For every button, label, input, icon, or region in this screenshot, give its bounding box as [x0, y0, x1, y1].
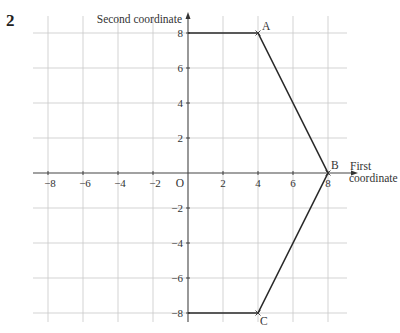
x-axis-label-line1: First [350, 160, 372, 172]
x-tick-label: −8 [44, 177, 56, 189]
grid-lines [33, 16, 347, 322]
y-tick-label: −6 [171, 272, 183, 284]
y-tick-label: −2 [171, 202, 183, 214]
x-tick-label: 4 [255, 177, 261, 189]
point-a-label: A [262, 20, 271, 32]
y-tick-label: 2 [178, 132, 184, 144]
x-tick-label: 6 [290, 177, 296, 189]
y-tick-label: 6 [178, 62, 184, 74]
coordinate-graph: −8 −6 −4 −2 2 4 6 8 −8 −6 −4 −2 2 4 6 8 … [0, 0, 400, 333]
x-tick-label: 2 [220, 177, 226, 189]
y-tick-label: −4 [171, 237, 183, 249]
point-b-label: B [331, 159, 339, 171]
x-tick-label: −4 [114, 177, 126, 189]
axes [33, 17, 353, 322]
point-c-label: C [260, 315, 268, 327]
y-tick-label: 4 [178, 97, 184, 109]
x-tick-label: −6 [79, 177, 91, 189]
x-axis-label-line2: coordinate [349, 172, 398, 184]
origin-label: O [176, 177, 184, 189]
y-axis-label: Second coordinate [97, 13, 182, 25]
x-tick-label: −2 [149, 177, 161, 189]
y-tick-label: 8 [178, 27, 184, 39]
x-tick-label: 8 [325, 177, 331, 189]
y-axis-arrow-icon [186, 12, 191, 19]
y-tick-label: −8 [171, 307, 183, 319]
